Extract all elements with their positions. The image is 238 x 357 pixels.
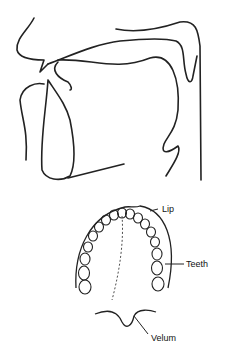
lip-label: Lip: [162, 204, 174, 214]
velum-label: Velum: [151, 333, 176, 343]
teeth-label: Teeth: [186, 259, 208, 269]
palate-occlusal-drawing: [0, 0, 238, 357]
